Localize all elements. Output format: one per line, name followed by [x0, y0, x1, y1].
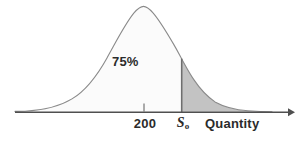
shaded-right-tail-region: [182, 59, 272, 112]
axis-tick-label-so: So: [167, 115, 199, 131]
threshold-symbol-subscript: o: [185, 121, 190, 131]
percent-area-label: 75%: [112, 54, 139, 69]
arrow-right-icon: [288, 108, 295, 116]
x-axis-title: Quantity: [205, 116, 259, 131]
axis-tick-label-200: 200: [129, 116, 161, 131]
threshold-symbol-main: S: [177, 115, 185, 130]
unshaded-left-region: [15, 7, 182, 112]
normal-distribution-chart: 75% 200 So Quantity: [0, 0, 303, 141]
